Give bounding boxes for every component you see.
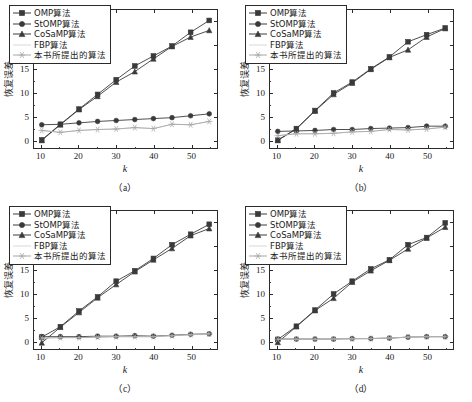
x-tick-mark (41, 346, 42, 350)
x-tick-mark (116, 145, 117, 149)
y-tick-mark (269, 117, 273, 118)
legend-label: 本书所提出的算法 (34, 50, 106, 61)
y-tick-mark-right (450, 45, 454, 46)
legend-item: FBP算法 (248, 241, 342, 252)
legend-item: FBP算法 (12, 40, 106, 51)
legend-label: OMP算法 (34, 209, 71, 220)
x-tick-label: 50 (423, 151, 432, 161)
y-tick-mark-right (450, 246, 454, 247)
x-tick-mark-top (116, 210, 117, 214)
legend-item: 本书所提出的算法 (12, 251, 106, 262)
chart-legend: OMP算法StOMP算法CoSaMP算法FBP算法本书所提出的算法 (245, 5, 347, 64)
y-minor-tick (33, 129, 35, 130)
x-minor-tick (333, 348, 334, 350)
x-tick-mark (78, 346, 79, 350)
y-tick-mark-right (214, 69, 218, 70)
x-tick-label: 30 (348, 352, 357, 362)
y-minor-tick (269, 105, 271, 106)
y-tick-mark-right (214, 141, 218, 142)
x-tick-label: 10 (272, 352, 281, 362)
x-tick-mark (116, 346, 117, 350)
legend-item: 本书所提出的算法 (248, 50, 342, 61)
y-tick-label: 5 (25, 112, 30, 122)
legend-item: FBP算法 (248, 40, 342, 51)
x-tick-mark (352, 145, 353, 149)
legend-item: StOMP算法 (248, 220, 342, 231)
panel-caption: （d） (349, 381, 374, 395)
chart-panel-a: 10203040500510152025k恢复误差（a）OMP算法StOMP算法… (0, 0, 236, 201)
x-tick-mark-top (192, 210, 193, 214)
y-tick-mark-right (450, 21, 454, 22)
legend-label: FBP算法 (34, 241, 68, 252)
legend-item: OMP算法 (12, 209, 106, 220)
legend-marker-circle-icon (248, 220, 268, 230)
x-minor-tick (97, 348, 98, 350)
x-minor-tick (295, 147, 296, 149)
y-tick-mark-right (450, 318, 454, 319)
x-tick-label: 20 (310, 352, 319, 362)
x-tick-label: 50 (187, 151, 196, 161)
legend-item: StOMP算法 (248, 19, 342, 30)
y-tick-label: 0 (261, 337, 266, 347)
y-tick-mark-right (450, 117, 454, 118)
y-tick-mark (269, 93, 273, 94)
legend-item: CoSaMP算法 (12, 29, 106, 40)
x-tick-mark-top (390, 9, 391, 13)
legend-marker-star-icon (12, 50, 32, 60)
legend-label: OMP算法 (34, 8, 71, 19)
chart-legend: OMP算法StOMP算法CoSaMP算法FBP算法本书所提出的算法 (245, 206, 347, 265)
y-axis-label: 恢复误差 (2, 262, 15, 298)
legend-label: FBP算法 (34, 40, 68, 51)
y-minor-tick (269, 282, 271, 283)
legend-marker-star-icon (248, 50, 268, 60)
y-axis-label: 恢复误差 (238, 262, 251, 298)
legend-marker-triangle-icon (248, 29, 268, 39)
y-tick-mark-right (214, 45, 218, 46)
y-tick-label: 10 (20, 289, 29, 299)
y-tick-mark (33, 294, 37, 295)
x-tick-mark-top (352, 210, 353, 214)
y-tick-label: 10 (256, 289, 265, 299)
legend-marker-square-icon (248, 8, 268, 18)
x-tick-label: 30 (348, 151, 357, 161)
legend-marker-triangle-icon (248, 230, 268, 240)
y-tick-mark-right (450, 222, 454, 223)
y-tick-mark-right (214, 117, 218, 118)
legend-label: CoSaMP算法 (270, 230, 322, 241)
x-minor-tick (333, 147, 334, 149)
legend-item: OMP算法 (248, 8, 342, 19)
y-minor-tick (33, 330, 35, 331)
x-tick-mark (192, 346, 193, 350)
y-tick-mark-right (214, 294, 218, 295)
y-tick-mark (33, 117, 37, 118)
x-minor-tick (59, 348, 60, 350)
y-tick-mark-right (450, 294, 454, 295)
y-tick-label: 15 (20, 64, 29, 74)
chart-legend: OMP算法StOMP算法CoSaMP算法FBP算法本书所提出的算法 (9, 206, 111, 265)
x-tick-mark (390, 145, 391, 149)
x-tick-mark-top (116, 9, 117, 13)
y-tick-label: 15 (256, 265, 265, 275)
legend-marker-triangle-icon (12, 230, 32, 240)
y-axis-label: 恢复误差 (2, 61, 15, 97)
legend-marker-square-icon (12, 209, 32, 219)
y-minor-tick (269, 306, 271, 307)
panel-caption: （c） (113, 381, 137, 395)
x-tick-label: 10 (272, 151, 281, 161)
x-tick-mark (428, 346, 429, 350)
y-tick-mark-right (450, 93, 454, 94)
x-tick-mark (352, 346, 353, 350)
x-tick-mark (428, 145, 429, 149)
y-minor-tick (33, 306, 35, 307)
y-tick-label: 0 (25, 136, 30, 146)
chart-legend: OMP算法StOMP算法CoSaMP算法FBP算法本书所提出的算法 (9, 5, 111, 64)
x-tick-mark-top (428, 210, 429, 214)
legend-marker-star-icon (248, 251, 268, 261)
x-tick-mark (314, 145, 315, 149)
y-minor-tick (269, 81, 271, 82)
chart-panel-b: 10203040500510152025k恢复误差（b）OMP算法StOMP算法… (236, 0, 472, 201)
legend-label: StOMP算法 (270, 220, 316, 231)
x-axis-label: k (123, 364, 127, 375)
x-tick-label: 40 (149, 352, 158, 362)
legend-marker-none-icon (248, 241, 268, 251)
